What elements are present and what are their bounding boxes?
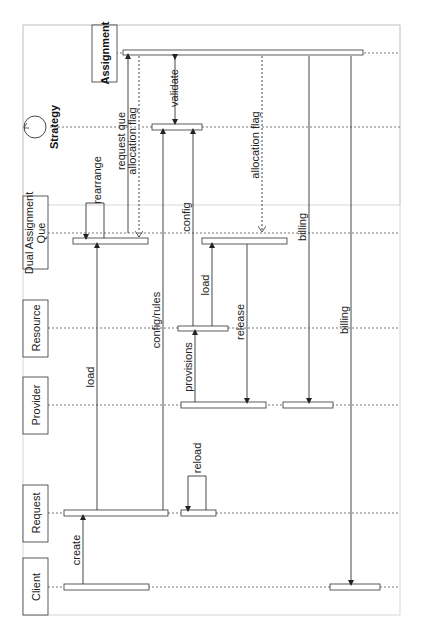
label-load-2: load (199, 275, 211, 296)
label-config-rules: config/rules (150, 291, 162, 348)
provider-label: Provider (30, 384, 42, 425)
label-create: create (70, 535, 82, 566)
activation-request-2 (181, 510, 216, 516)
label-billing-2: billing (338, 306, 350, 334)
label-release: release (234, 304, 246, 340)
msg-reload (188, 476, 206, 510)
request-label: Request (30, 493, 42, 534)
activation-dual-que-1 (73, 238, 148, 244)
message-labels: create load rearrange request que alloca… (70, 69, 350, 565)
label-load-1: load (84, 367, 96, 388)
label-billing-1: billing (296, 213, 308, 241)
activation-client-1 (64, 584, 149, 590)
participant-dual-assignment-que: Dual Assignment Que (23, 192, 48, 275)
activation-client-2 (330, 584, 380, 590)
label-rearrange: rearrange (91, 156, 103, 204)
participant-request: Request (23, 485, 48, 542)
strategy-control-icon (24, 116, 46, 138)
activation-provider-2 (283, 402, 333, 408)
activation-dual-que-2 (202, 238, 287, 244)
sequence-diagram: Assignment Strategy Dual Assignment Que … (0, 0, 421, 642)
participant-assignment: Assignment (92, 21, 117, 84)
participant-client: Client (23, 558, 48, 615)
dual-assignment-label-line1: Dual Assignment (23, 192, 35, 275)
assignment-label: Assignment (99, 21, 111, 84)
client-label: Client (30, 573, 42, 601)
activation-assignment (123, 50, 363, 55)
label-validate: validate (168, 69, 180, 107)
activation-strategy (152, 124, 202, 130)
label-config: config (180, 202, 192, 231)
activation-request-1 (64, 510, 168, 516)
label-provisions: provisions (182, 342, 194, 392)
label-reload: reload (191, 443, 203, 474)
dual-assignment-label-line2: Que (35, 223, 47, 244)
activation-provider-1 (181, 402, 266, 408)
label-allocation-flag-1: allocation flag (126, 107, 138, 174)
participant-resource: Resource (23, 300, 48, 357)
activation-bars (64, 50, 380, 590)
resource-label: Resource (30, 304, 42, 351)
activation-resource (178, 326, 228, 331)
participant-provider: Provider (23, 377, 48, 434)
participant-strategy: Strategy (24, 104, 60, 149)
label-allocation-flag-2: allocation flag (249, 111, 261, 178)
strategy-label: Strategy (48, 104, 60, 149)
